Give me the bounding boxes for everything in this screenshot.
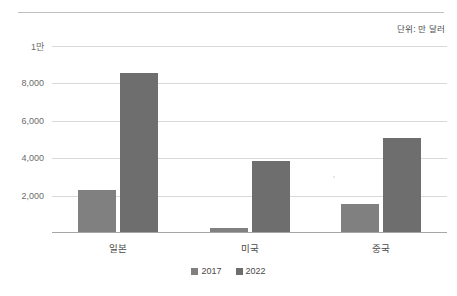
- y-tick-label-2000: 2,000: [0, 191, 44, 201]
- bar-미국-2022: [252, 161, 290, 232]
- legend-swatch-icon: [236, 268, 243, 275]
- category-label-중국: 중국: [372, 241, 390, 255]
- y-tick-label-8000: 8,000: [0, 78, 44, 88]
- y-tick-label-6000: 6,000: [0, 116, 44, 126]
- plot-area: 2,0004,0006,0008,0001만: [52, 46, 447, 233]
- legend-item-2017[interactable]: 2017: [191, 266, 221, 276]
- x-axis-line: [52, 232, 447, 233]
- bar-chart-figure: 단위: 만 달러 2,0004,0006,0008,0001만 일본미국중국 2…: [0, 0, 457, 296]
- gridline-10000: [52, 46, 447, 47]
- legend-item-2022[interactable]: 2022: [236, 266, 266, 276]
- y-tick-label-10000: 1만: [0, 40, 44, 53]
- bar-중국-2022: [383, 138, 421, 232]
- legend-label: 2022: [246, 266, 266, 276]
- top-divider-rule: [18, 12, 444, 13]
- unit-annotation: 단위: 만 달러: [397, 22, 445, 34]
- stray-dot-artifact: [333, 176, 335, 178]
- category-label-일본: 일본: [109, 241, 127, 255]
- y-tick-label-4000: 4,000: [0, 153, 44, 163]
- bar-일본-2022: [120, 73, 158, 232]
- legend-swatch-icon: [191, 268, 198, 275]
- chart-legend: 20172022: [0, 266, 457, 276]
- gridline-8000: [52, 83, 447, 84]
- bar-중국-2017: [341, 204, 379, 232]
- gridline-6000: [52, 121, 447, 122]
- legend-label: 2017: [201, 266, 221, 276]
- category-label-미국: 미국: [241, 241, 259, 255]
- bar-일본-2017: [78, 190, 116, 232]
